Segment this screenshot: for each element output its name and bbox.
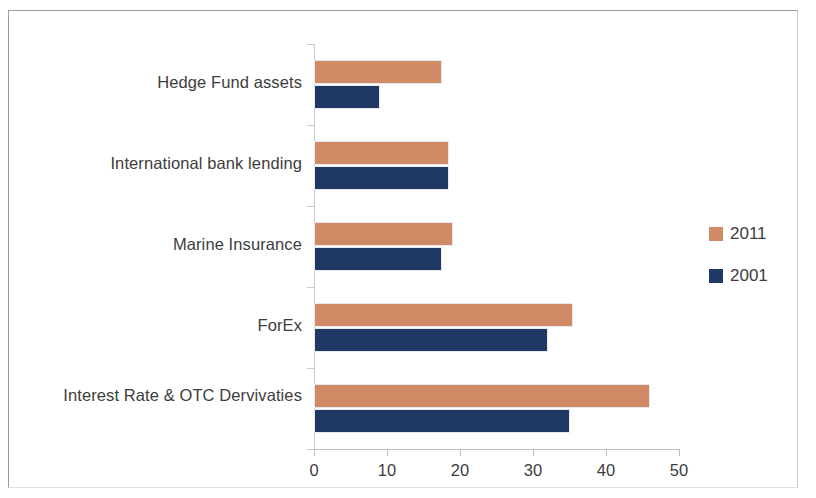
legend-swatch-icon (709, 269, 723, 283)
legend-entry-2011[interactable]: 2011 (709, 224, 809, 244)
value-axis-tick-label: 30 (513, 461, 553, 480)
category-axis-tick (307, 287, 314, 288)
chart-legend: 20112001 (709, 224, 809, 308)
plot-area: Hedge Fund assetsInternational bank lend… (314, 44, 679, 449)
bar-group: Interest Rate & OTC Dervivaties (314, 384, 679, 433)
value-axis-tick-label: 40 (586, 461, 626, 480)
bar-2001-1 (314, 166, 449, 190)
category-axis-tick (307, 125, 314, 126)
bar-2011-1 (314, 141, 449, 165)
bar-group: ForEx (314, 303, 679, 352)
bar-2001-3 (314, 328, 548, 352)
value-axis-tick (387, 449, 388, 456)
value-axis-line (314, 449, 680, 450)
category-label: Hedge Fund assets (12, 72, 302, 93)
bar-group: Hedge Fund assets (314, 60, 679, 109)
bar-group: International bank lending (314, 141, 679, 190)
value-axis-tick (679, 449, 680, 456)
legend-label: 2001 (730, 266, 768, 286)
bar-2011-3 (314, 303, 573, 327)
category-axis-tick (307, 449, 314, 450)
bar-2011-2 (314, 222, 453, 246)
value-axis-tick (606, 449, 607, 456)
legend-entry-2001[interactable]: 2001 (709, 266, 809, 286)
bar-2001-2 (314, 247, 442, 271)
category-axis-tick (307, 44, 314, 45)
category-label: Interest Rate & OTC Dervivaties (12, 385, 302, 406)
category-axis-tick (307, 206, 314, 207)
chart-frame: 01020304050 Hedge Fund assetsInternation… (8, 10, 798, 488)
legend-swatch-icon (709, 227, 723, 241)
category-label: International bank lending (12, 153, 302, 174)
value-axis-tick-label: 50 (659, 461, 699, 480)
category-label: ForEx (12, 315, 302, 336)
value-axis-tick (460, 449, 461, 456)
value-axis-tick-label: 10 (367, 461, 407, 480)
legend-label: 2011 (730, 224, 767, 244)
value-axis-tick (314, 449, 315, 456)
bar-2011-4 (314, 384, 650, 408)
category-axis-tick (307, 368, 314, 369)
bar-group: Marine Insurance (314, 222, 679, 271)
category-label: Marine Insurance (12, 234, 302, 255)
value-axis-tick-label: 20 (440, 461, 480, 480)
bar-2011-0 (314, 60, 442, 84)
bar-2001-4 (314, 409, 570, 433)
value-axis-tick (533, 449, 534, 456)
bar-2001-0 (314, 85, 380, 109)
value-axis-tick-label: 0 (294, 461, 334, 480)
